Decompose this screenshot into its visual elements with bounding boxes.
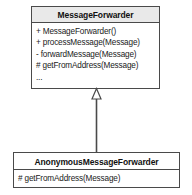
- class-members-anonymous-message-forwarder: # getFromAddress(Message): [14, 170, 179, 188]
- class-box-anonymous-message-forwarder[interactable]: AnonymousMessageForwarder # getFromAddre…: [13, 152, 180, 188]
- hollow-triangle-arrowhead-icon: [92, 89, 101, 100]
- class-member: # getFromAddress(Message): [36, 60, 159, 71]
- class-member: + MessageForwarder(): [36, 26, 159, 37]
- class-name-anonymous-message-forwarder: AnonymousMessageForwarder: [14, 153, 179, 170]
- class-member: + processMessage(Message): [36, 37, 159, 48]
- class-member: # getFromAddress(Message): [18, 173, 179, 184]
- uml-class-diagram: MessageForwarder + MessageForwarder() + …: [0, 0, 192, 195]
- class-member: - forwardMessage(Message): [36, 49, 159, 60]
- class-box-message-forwarder[interactable]: MessageForwarder + MessageForwarder() + …: [31, 6, 160, 89]
- class-member-ellipsis: ...: [36, 72, 159, 83]
- class-name-message-forwarder: MessageForwarder: [32, 7, 159, 23]
- class-members-message-forwarder: + MessageForwarder() + processMessage(Me…: [32, 23, 159, 88]
